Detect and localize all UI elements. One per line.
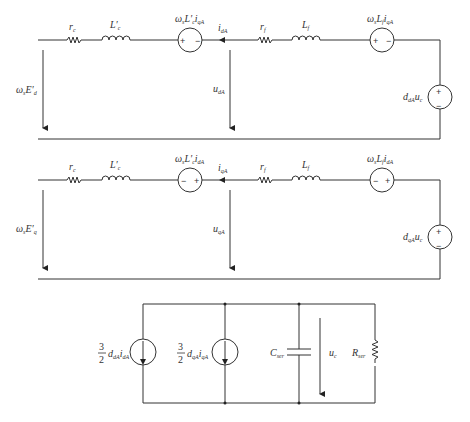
current-source-q-icon [212, 339, 238, 365]
current-arrow-icon [219, 37, 225, 43]
label-lf: Lf [301, 159, 311, 171]
label-converter-source: ddAuc [403, 91, 423, 103]
svg-text:+: + [373, 36, 378, 46]
svg-text:−: − [181, 176, 186, 186]
label-emf: ωsE′d [16, 84, 38, 96]
capacitor-icon [287, 349, 311, 355]
resistor-rc-icon [67, 37, 81, 43]
label-rf: rf [260, 21, 267, 33]
svg-text:−: − [386, 36, 391, 46]
label-converter-source: dqAuc [403, 231, 423, 243]
current-source-d-icon [130, 339, 156, 365]
label-current-source-q: 3 2 dqAiqA [177, 341, 208, 365]
label-emf: ωsE′q [16, 223, 37, 235]
label-terminal-voltage: uqA [213, 223, 225, 235]
svg-text:+: + [385, 176, 390, 186]
svg-text:2: 2 [99, 354, 104, 365]
d-axis-circuit: + − + − + − rc L′c ωsL′ciqA idA rf Lf ωs… [16, 13, 452, 139]
label-lc: L′c [109, 19, 121, 31]
converter-voltage-source-icon: + − [428, 85, 452, 111]
coupling-voltage-source-icon: − + [178, 168, 202, 192]
label-coupling-source: ωsL′cidA [175, 153, 205, 165]
resistor-rf-icon [258, 37, 272, 43]
q-axis-circuit: − + − + + − rc L′c ωsL′cidA iqA rf Lf ωs… [16, 153, 452, 279]
label-lc: L′c [109, 159, 121, 171]
label-current: idA [218, 22, 228, 34]
label-lf: Lf [301, 19, 311, 31]
label-current: iqA [218, 162, 228, 174]
svg-text:+: + [436, 227, 441, 237]
inductor-lc-icon [102, 36, 130, 40]
svg-text:dqAiqA: dqAiqA [187, 348, 208, 360]
converter-voltage-source-icon: + − [428, 225, 452, 251]
label-capacitor: Cser [270, 347, 285, 359]
svg-text:3: 3 [99, 341, 104, 352]
label-current-source-d: 3 2 ddAidA [98, 341, 129, 365]
svg-text:−: − [195, 36, 200, 46]
svg-text:−: − [373, 176, 378, 186]
label-terminal-voltage: udA [213, 83, 225, 95]
resistor-rf-icon [258, 177, 272, 183]
label-rf: rf [260, 161, 267, 173]
label-coupling-source: ωsL′ciqA [175, 13, 205, 25]
resistor-rser-icon [372, 340, 378, 363]
filter-voltage-source-icon: − + [370, 168, 394, 192]
svg-text:ddAidA: ddAidA [108, 348, 129, 360]
label-filter-source: ωsLfiqA [367, 13, 393, 25]
svg-text:3: 3 [178, 341, 183, 352]
svg-text:+: + [194, 176, 199, 186]
label-resistor: Rser [351, 347, 366, 359]
inductor-lc-icon [102, 176, 130, 180]
resistor-rc-icon [67, 177, 81, 183]
label-dc-voltage: uc [329, 347, 337, 359]
label-rc: rc [69, 161, 76, 173]
circuit-diagram: + − + − + − rc L′c ωsL′ciqA idA rf Lf ωs… [0, 0, 470, 422]
inductor-lf-icon [292, 176, 320, 180]
label-filter-source: ωsLfidA [367, 153, 393, 165]
current-arrow-icon [219, 177, 225, 183]
dc-side-circuit: 3 2 ddAidA 3 2 dqAiqA Cser uc Rser [98, 303, 378, 405]
inductor-lf-icon [292, 36, 320, 40]
svg-text:2: 2 [178, 354, 183, 365]
svg-text:+: + [180, 36, 185, 46]
filter-voltage-source-icon: + − [370, 28, 394, 52]
label-rc: rc [69, 21, 76, 33]
coupling-voltage-source-icon: + − [178, 28, 202, 52]
svg-text:+: + [436, 87, 441, 97]
